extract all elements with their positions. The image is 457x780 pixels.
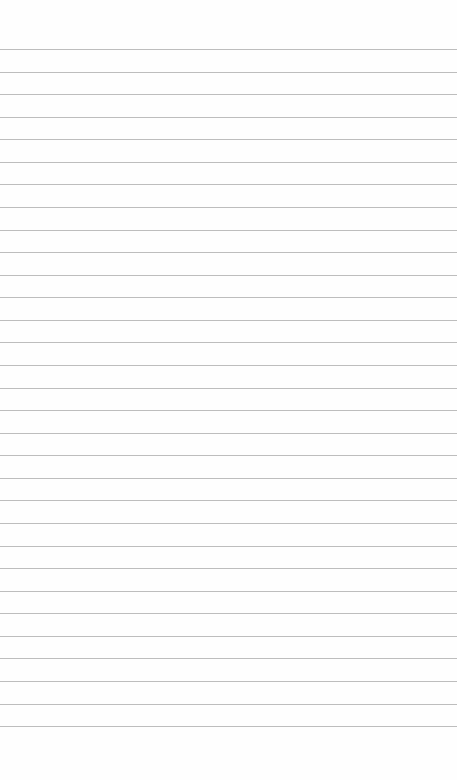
note-text-area[interactable] [0, 0, 457, 780]
lined-notepad-page [0, 0, 457, 780]
